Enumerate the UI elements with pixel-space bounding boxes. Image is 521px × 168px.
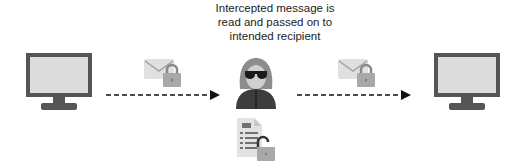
diagram-caption: Intercepted message is read and passed o… (195, 1, 355, 43)
left-message (143, 57, 187, 89)
dashed-arrow-right-icon (297, 89, 413, 101)
envelope-locked-icon (337, 57, 381, 89)
recipient-computer (433, 52, 501, 114)
arrow-sender-to-attacker (106, 89, 222, 101)
exposed-message (236, 117, 276, 163)
right-message (337, 57, 381, 89)
hooded-hacker-icon (234, 57, 278, 109)
caption-line-2: read and passed on to (195, 15, 355, 29)
sender-computer (25, 52, 93, 114)
computer-monitor-icon (433, 52, 501, 114)
dashed-arrow-right-icon (106, 89, 222, 101)
envelope-locked-icon (143, 57, 187, 89)
caption-line-1: Intercepted message is (195, 1, 355, 15)
arrow-attacker-to-recipient (297, 89, 413, 101)
computer-monitor-icon (25, 52, 93, 114)
caption-line-3: intended recipient (195, 29, 355, 43)
document-unlocked-icon (236, 117, 276, 163)
attacker (234, 57, 278, 109)
